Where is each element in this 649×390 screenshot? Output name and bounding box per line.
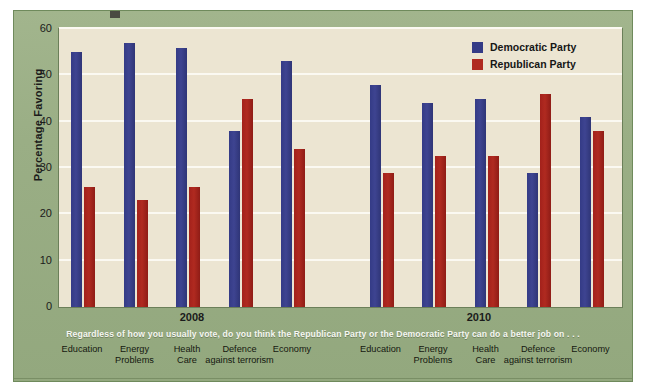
legend-swatch-democratic-icon xyxy=(472,42,483,53)
bar-2008-republican-2 xyxy=(189,187,200,307)
bar-2008-democratic-4 xyxy=(281,61,292,307)
bar-2010-republican-1 xyxy=(435,156,446,307)
bar-2010-democratic-3 xyxy=(527,173,538,307)
legend-item-democratic: Democratic Party xyxy=(472,41,612,53)
category-label-4: Economy xyxy=(252,344,332,355)
y-tick-20: 20 xyxy=(22,207,52,219)
bar-2010-republican-2 xyxy=(488,156,499,307)
bar-2008-republican-4 xyxy=(294,149,305,307)
bar-2008-republican-1 xyxy=(137,200,148,307)
y-tick-0: 0 xyxy=(22,300,52,312)
chart-caption: Regardless of how you usually vote, do y… xyxy=(14,329,632,339)
y-axis-title: Percentage Favoring xyxy=(32,45,44,205)
gridline-40 xyxy=(59,120,622,122)
gridline-30 xyxy=(59,166,622,168)
group-label-2008: 2008 xyxy=(152,311,232,323)
category-label-line1: Economy xyxy=(551,344,631,355)
bar-2010-republican-0 xyxy=(383,173,394,307)
bar-2010-democratic-1 xyxy=(422,103,433,307)
gridline-60 xyxy=(59,27,622,29)
category-divider xyxy=(14,378,632,379)
category-label-9: Economy xyxy=(551,344,631,355)
plot-panel: Democratic Party Republican Party xyxy=(58,28,623,308)
category-label-line2: against terrorism xyxy=(498,355,578,366)
category-label-line2: against terrorism xyxy=(200,355,280,366)
bar-2008-republican-0 xyxy=(84,187,95,307)
legend: Democratic Party Republican Party xyxy=(472,41,612,75)
bar-2010-republican-3 xyxy=(540,94,551,307)
bar-2008-democratic-0 xyxy=(71,52,82,307)
bar-2008-republican-3 xyxy=(242,99,253,308)
legend-label-democratic: Democratic Party xyxy=(490,41,576,53)
bar-2010-democratic-0 xyxy=(370,85,381,307)
legend-swatch-republican-icon xyxy=(472,59,483,70)
legend-label-republican: Republican Party xyxy=(490,58,576,70)
category-label-line1: Economy xyxy=(252,344,332,355)
bar-2008-democratic-1 xyxy=(124,43,135,307)
legend-item-republican: Republican Party xyxy=(472,58,612,70)
chart-screenshot: Democratic Party Republican Party 010203… xyxy=(0,0,649,390)
bar-2010-republican-4 xyxy=(593,131,604,307)
bar-2008-democratic-3 xyxy=(229,131,240,307)
y-tick-10: 10 xyxy=(22,254,52,266)
bar-2010-democratic-2 xyxy=(475,99,486,308)
bar-2010-democratic-4 xyxy=(580,117,591,307)
chart-frame: Democratic Party Republican Party 010203… xyxy=(13,10,633,382)
group-label-2010: 2010 xyxy=(439,311,519,323)
top-cut-mark xyxy=(110,11,120,18)
y-tick-60: 60 xyxy=(22,22,52,34)
bar-2008-democratic-2 xyxy=(176,48,187,307)
